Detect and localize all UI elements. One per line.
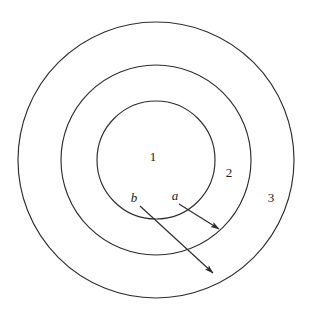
radius-label-b: b [131,190,138,205]
concentric-circles-figure: 1 2 3 b a [0,0,310,318]
radius-arrow-a [179,204,219,229]
region-label-1: 1 [150,149,157,164]
region-label-2: 2 [226,165,233,180]
radius-label-a: a [172,188,179,203]
region-label-3: 3 [268,190,275,205]
radius-arrow-b [140,206,213,273]
figure-container: 1 2 3 b a [0,0,310,318]
